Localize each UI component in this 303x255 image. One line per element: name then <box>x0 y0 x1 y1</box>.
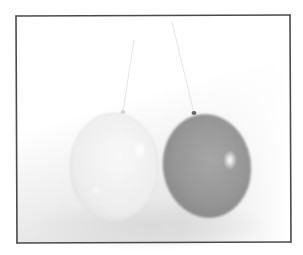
dark-balloon-knot <box>192 111 197 115</box>
light-balloon-knot <box>121 110 126 114</box>
photo-scene <box>0 0 303 255</box>
balloons-photo <box>0 0 303 255</box>
background <box>16 16 291 250</box>
